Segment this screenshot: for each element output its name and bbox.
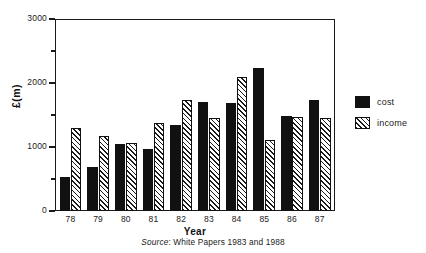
source-note: Source: White Papers 1983 and 1988 <box>0 237 426 247</box>
bar-cost-80 <box>115 144 125 211</box>
bar-cost-85 <box>253 68 263 211</box>
x-axis-tick-label-81: 81 <box>140 211 168 227</box>
x-axis-tick-label-85: 85 <box>250 211 278 227</box>
bars-layer <box>57 19 334 211</box>
legend-label-cost: cost <box>377 97 394 107</box>
bar-group-83 <box>195 19 223 211</box>
bar-income-78 <box>71 128 81 211</box>
legend-swatch-cost-icon <box>355 96 370 108</box>
chart-legend: cost income <box>355 96 425 138</box>
x-axis-tick-label-80: 80 <box>112 211 140 227</box>
bar-group-85 <box>250 19 278 211</box>
y-axis-tick-label: 0 <box>42 205 47 216</box>
bar-cost-86 <box>281 116 291 211</box>
legend-item-cost: cost <box>355 96 425 108</box>
bar-group-84 <box>223 19 251 211</box>
bar-group-79 <box>84 19 112 211</box>
x-axis-tick-label-78: 78 <box>57 211 85 227</box>
bar-cost-83 <box>198 102 208 211</box>
x-axis-tick-label-84: 84 <box>223 211 251 227</box>
bar-chart: £(m) 0100020003000 78798081828384858687 … <box>0 0 426 253</box>
y-axis: 0100020003000 <box>0 19 55 211</box>
bar-cost-87 <box>309 100 319 211</box>
bar-income-87 <box>320 118 330 211</box>
y-axis-tick-label: 3000 <box>27 13 47 24</box>
legend-swatch-income-icon <box>355 117 370 129</box>
bar-income-85 <box>265 140 275 211</box>
bar-income-80 <box>126 143 136 211</box>
bar-group-81 <box>140 19 168 211</box>
source-prefix: Source <box>141 237 168 247</box>
bar-cost-81 <box>143 149 153 211</box>
bar-group-87 <box>306 19 334 211</box>
x-axis-tick-label-87: 87 <box>306 211 334 227</box>
bar-income-83 <box>209 118 219 211</box>
x-axis-tick-label-86: 86 <box>278 211 306 227</box>
bar-cost-82 <box>170 125 180 211</box>
source-text: : White Papers 1983 and 1988 <box>168 237 284 247</box>
bar-income-79 <box>99 136 109 211</box>
x-axis-title: Year <box>55 226 335 237</box>
legend-item-income: income <box>355 117 425 129</box>
x-axis-tick-label-83: 83 <box>195 211 223 227</box>
bar-group-86 <box>278 19 306 211</box>
bar-group-82 <box>167 19 195 211</box>
bar-income-82 <box>182 100 192 211</box>
bar-cost-79 <box>87 167 97 211</box>
bar-cost-78 <box>60 177 70 211</box>
legend-label-income: income <box>377 118 407 128</box>
bar-group-78 <box>57 19 85 211</box>
y-axis-tick-label: 1000 <box>27 141 47 152</box>
bar-income-84 <box>237 77 247 211</box>
bar-cost-84 <box>226 103 236 211</box>
x-axis-tick-label-82: 82 <box>167 211 195 227</box>
y-axis-tick-label: 2000 <box>27 77 47 88</box>
bar-group-80 <box>112 19 140 211</box>
bar-income-86 <box>292 117 302 211</box>
x-axis-tick-label-79: 79 <box>84 211 112 227</box>
bar-income-81 <box>154 123 164 211</box>
